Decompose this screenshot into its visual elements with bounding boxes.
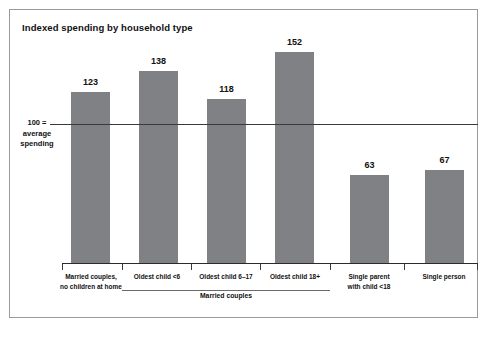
category-label-line-1: Married couples, (55, 272, 127, 282)
x-axis-tick (62, 264, 63, 270)
x-axis-tick (122, 264, 123, 270)
bar-married-no-children (71, 92, 110, 263)
x-axis-tick (191, 264, 192, 270)
x-axis-line (62, 263, 478, 264)
category-label-oldest-child-under-6: Oldest child <6 (124, 272, 190, 282)
category-label-single-person: Single person (409, 272, 479, 282)
x-axis-tick (330, 264, 331, 270)
group-bracket-label: Married couples (122, 292, 330, 299)
value-label-oldest-child-18-plus: 152 (270, 37, 319, 47)
category-label-oldest-child-18-plus: Oldest child 18+ (262, 272, 328, 282)
category-label-line-1: Single person (409, 272, 479, 282)
bar-single-person (425, 170, 464, 263)
reference-annotation-line-2: average (12, 129, 62, 140)
reference-line-100 (62, 124, 478, 125)
category-label-line-1: Oldest child 18+ (262, 272, 328, 282)
bar-single-parent (350, 175, 389, 263)
category-label-single-parent: Single parent with child <18 (333, 272, 405, 291)
bar-oldest-child-18-plus (275, 52, 314, 263)
category-label-line-1: Single parent (333, 272, 405, 282)
category-label-line-1: Oldest child 6–17 (193, 272, 259, 282)
chart-page: Indexed spending by household type 123 1… (0, 0, 490, 340)
value-label-married-no-children: 123 (66, 77, 115, 87)
plot-area: 123 138 118 152 63 67 100 = average spen… (0, 0, 490, 340)
x-axis-tick (477, 264, 478, 270)
reference-annotation-line-3: spending (12, 139, 62, 150)
x-axis-tick (260, 264, 261, 270)
value-label-oldest-child-under-6: 138 (134, 56, 183, 66)
category-label-line-2: with child <18 (333, 282, 405, 292)
value-label-single-parent: 63 (345, 160, 394, 170)
value-label-single-person: 67 (420, 155, 469, 165)
category-label-line-2: no children at home (55, 282, 127, 292)
x-axis-tick (404, 264, 405, 270)
reference-line-annotation: 100 = average spending (12, 118, 62, 150)
bar-oldest-child-under-6 (139, 71, 178, 263)
value-label-oldest-child-6-17: 118 (202, 84, 251, 94)
category-label-line-1: Oldest child <6 (124, 272, 190, 282)
category-label-oldest-child-6-17: Oldest child 6–17 (193, 272, 259, 282)
group-bracket-line (122, 290, 330, 291)
category-label-married-no-children: Married couples, no children at home (55, 272, 127, 291)
reference-annotation-line-1: 100 = (12, 118, 62, 129)
